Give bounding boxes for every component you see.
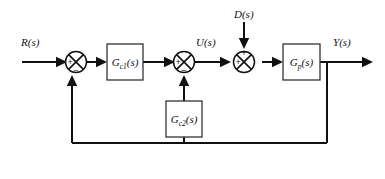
wire-sum2-to-sum3 [193, 57, 231, 67]
block-diagram-canvas: Gc1(s) Gc2(s) Gp(s) + − + [0, 0, 385, 179]
block-gp-arg: (s) [302, 56, 314, 69]
sum2-sign-bottom: − [182, 65, 187, 75]
wire-sum3-to-gp [262, 57, 283, 67]
block-gc1-arg: (s) [127, 56, 139, 69]
block-diagram: Gc1(s) Gc2(s) Gp(s) + − + [0, 0, 385, 179]
block-gp-base: G [290, 56, 298, 68]
summing-junction-2[interactable]: + − [174, 52, 195, 75]
label-output-signal: Y(s) [333, 36, 351, 49]
sum1-sign-left: + [68, 57, 73, 67]
block-gc2-base: G [171, 113, 179, 125]
sum2-sign-left: + [176, 57, 181, 67]
wire-sum1-to-gc1 [85, 57, 107, 67]
wire-disturbance [239, 22, 249, 49]
wire-gc1-to-sum2 [143, 57, 175, 67]
block-gc2-arg: (s) [186, 113, 198, 126]
sum3-sign-left: + [236, 57, 241, 67]
label-disturbance-signal: D(s) [233, 8, 254, 21]
block-gc1-sub: c1 [120, 62, 127, 71]
block-gc1[interactable]: Gc1(s) [107, 44, 143, 80]
block-gc1-base: G [112, 56, 120, 68]
block-gc2[interactable]: Gc2(s) [166, 101, 202, 137]
label-control-signal: U(s) [196, 36, 216, 49]
input-wire [22, 57, 67, 67]
sum1-sign-bottom: − [74, 65, 79, 75]
summing-junction-1[interactable]: + − [66, 52, 87, 75]
label-reference-signal: R(s) [20, 36, 40, 49]
block-gp[interactable]: Gp(s) [283, 44, 320, 80]
summing-junction-3[interactable]: + + [234, 48, 255, 72]
sum3-sign-top: + [242, 48, 247, 58]
